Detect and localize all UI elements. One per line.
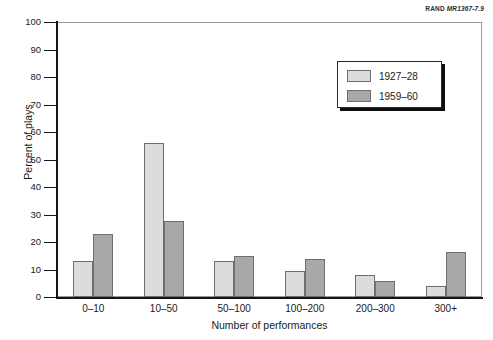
figure-brand-label: RAND	[425, 5, 444, 12]
figure-source-tag: RAND MR1367-7.9	[425, 5, 484, 12]
y-axis-title: Percent of plays	[22, 72, 34, 212]
y-axis-tick	[44, 187, 56, 188]
y-axis-tick-label: 40	[0, 182, 41, 192]
y-axis-tick-label: 90	[0, 45, 41, 55]
figure-id-label: MR1367-7.9	[447, 5, 484, 12]
y-axis-tick-label: 70	[0, 100, 41, 110]
y-axis-tick-label: 0	[0, 292, 41, 302]
bar	[144, 143, 164, 297]
bar	[285, 271, 305, 297]
y-axis-tick	[44, 215, 56, 216]
bar	[214, 261, 234, 297]
bar	[93, 234, 113, 297]
bar	[355, 275, 375, 297]
x-axis-line	[56, 297, 483, 299]
legend-item: 1927–28	[347, 70, 418, 82]
bar	[375, 281, 395, 298]
y-axis-tick	[44, 77, 56, 78]
y-axis-tick-label: 50	[0, 155, 41, 165]
y-axis-tick-label: 30	[0, 210, 41, 220]
y-axis-tick	[44, 242, 56, 243]
bar	[234, 256, 254, 297]
legend-label: 1959–60	[379, 91, 418, 102]
y-axis-tick	[44, 160, 56, 161]
legend-item: 1959–60	[347, 90, 418, 102]
y-axis-tick-label: 10	[0, 265, 41, 275]
y-axis-tick	[44, 105, 56, 106]
chart-legend: 1927–281959–60	[337, 61, 442, 108]
legend-label: 1927–28	[379, 71, 418, 82]
y-axis-tick-label: 20	[0, 237, 41, 247]
legend-swatch	[347, 90, 371, 102]
y-axis-tick	[44, 132, 56, 133]
x-axis-title: Number of performances	[57, 319, 482, 331]
y-axis-tick	[44, 270, 56, 271]
bar	[305, 259, 325, 298]
y-axis-tick-label: 100	[0, 17, 41, 27]
bar	[73, 261, 93, 297]
bar	[164, 221, 184, 297]
y-axis-tick	[44, 297, 56, 298]
x-axis-tick-label: 300+	[401, 303, 491, 314]
legend-swatch	[347, 70, 371, 82]
y-axis-tick	[44, 22, 56, 23]
y-axis-tick	[44, 50, 56, 51]
bar	[446, 252, 466, 297]
bar	[426, 286, 446, 297]
y-axis-tick-label: 80	[0, 72, 41, 82]
y-axis-tick-label: 60	[0, 127, 41, 137]
